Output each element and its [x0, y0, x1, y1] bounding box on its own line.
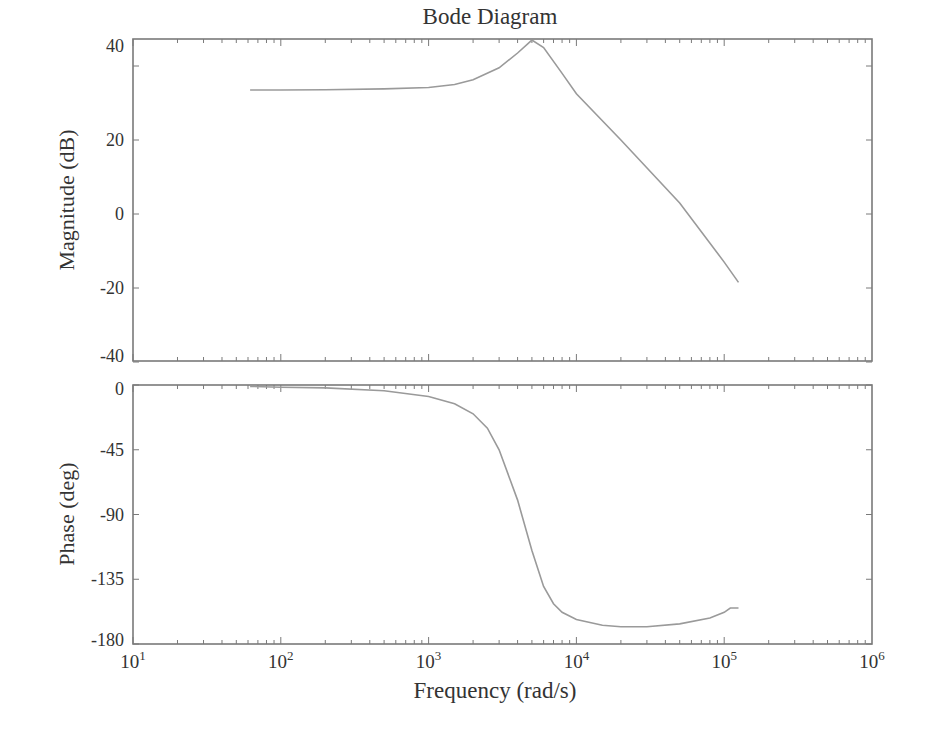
y-tick-label: -90 [100, 505, 124, 525]
magnitude-y-axis-label: Magnitude (dB) [54, 129, 79, 270]
phase-y-tick-labels: 0-45-90-135-180 [91, 379, 124, 650]
phase-ticks [133, 385, 872, 644]
phase-y-axis-label: Phase (deg) [54, 462, 79, 565]
magnitude-curve [250, 40, 738, 282]
y-tick-label: 0 [115, 379, 124, 399]
magnitude-ticks [133, 39, 872, 362]
magnitude-panel: 40200-20-40 Magnitude (dB) [54, 36, 872, 366]
y-tick-label: 40 [106, 36, 124, 56]
phase-curve [250, 386, 738, 626]
y-tick-label: -40 [100, 346, 124, 366]
x-tick-label: 101 [120, 648, 146, 672]
chart-title: Bode Diagram [423, 4, 558, 29]
magnitude-axes-frame [133, 39, 872, 361]
x-tick-label: 103 [416, 648, 442, 672]
y-tick-label: -135 [91, 569, 124, 589]
x-tick-label: 106 [859, 648, 885, 672]
phase-panel: 0-45-90-135-180 Phase (deg) [54, 379, 872, 650]
magnitude-y-tick-labels: 40200-20-40 [100, 36, 124, 366]
y-tick-label: -45 [100, 440, 124, 460]
y-tick-label: 0 [115, 204, 124, 224]
x-tick-labels: 101102103104105106 [120, 648, 885, 672]
y-tick-label: 20 [106, 130, 124, 150]
x-tick-label: 102 [268, 648, 294, 672]
x-tick-label: 105 [711, 648, 737, 672]
x-axis-label: Frequency (rad/s) [414, 678, 577, 703]
bode-diagram: Bode Diagram 40200-20-40 Magnitude (dB) … [0, 0, 930, 740]
phase-axes-frame [133, 385, 872, 644]
y-tick-label: -20 [100, 278, 124, 298]
x-tick-label: 104 [564, 648, 590, 672]
y-tick-label: -180 [91, 630, 124, 650]
